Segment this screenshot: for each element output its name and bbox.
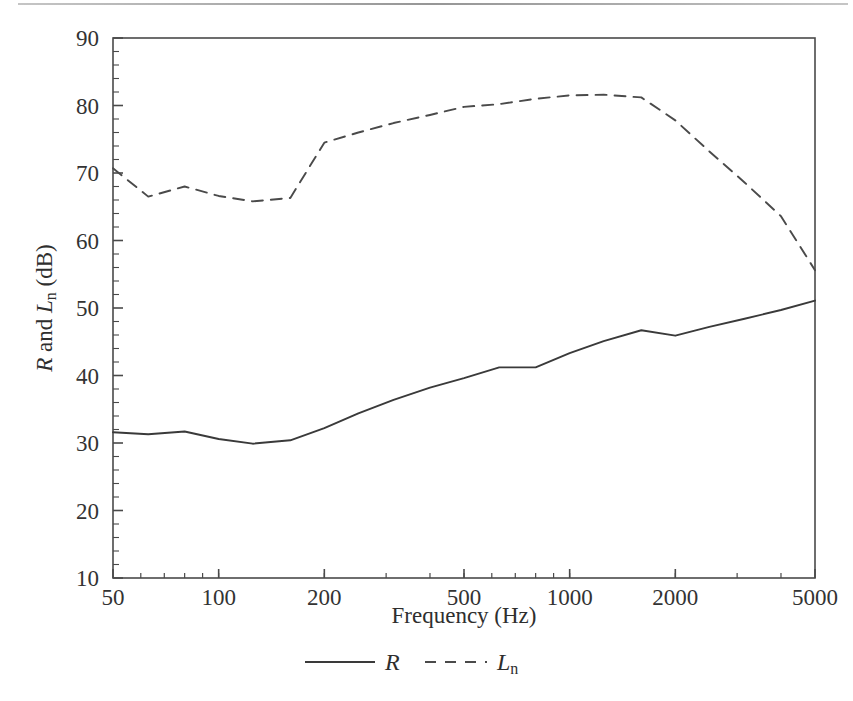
x-tick-label: 50 [102,585,125,610]
y-tick-label: 80 [76,94,99,119]
x-tick-label: 1000 [547,585,593,610]
y-tick-label: 90 [76,26,99,51]
x-tick-label: 200 [307,585,342,610]
y-tick-label: 70 [76,161,99,186]
y-axis-title-subscript: n [42,292,59,300]
figure-canvas: 50100200500100020005000 1020304050607080… [0,0,853,701]
x-axis-title: Frequency (Hz) [392,603,537,628]
y-axis-tick-labels: 102030405060708090 [76,26,99,591]
plot-frame [113,38,815,578]
y-axis-title-unit: (dB) [32,244,57,292]
chart-svg: 50100200500100020005000 1020304050607080… [0,0,853,701]
y-axis-title-and: and [32,313,57,358]
y-tick-label: 30 [76,431,99,456]
legend-label-ln: Ln [496,649,518,677]
x-tick-label: 5000 [792,585,838,610]
x-tick-label: 2000 [652,585,698,610]
y-tick-label: 40 [76,364,99,389]
y-tick-label: 60 [76,229,99,254]
legend-label-r: R [384,649,400,675]
y-tick-label: 20 [76,499,99,524]
y-axis-title-r: R [32,358,57,373]
y-tick-label: 10 [76,566,99,591]
y-axis-title-l: L [32,300,57,314]
y-tick-label: 50 [76,296,99,321]
series-line-r [113,301,815,444]
series-line-ln [113,95,815,271]
y-axis-title: R and Ln (dB) [32,244,59,373]
svg-text:R and Ln (dB): R and Ln (dB) [32,244,59,373]
chart-legend: R Ln [305,649,518,677]
x-tick-label: 100 [201,585,236,610]
data-series-layer [113,95,815,444]
